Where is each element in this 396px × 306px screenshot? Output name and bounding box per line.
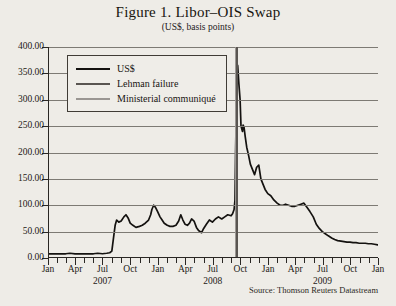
x-axis-tick-minor xyxy=(204,258,205,263)
figure-container: Figure 1. Libor–OIS Swap (US$, basis poi… xyxy=(0,0,396,306)
x-axis-tick-minor xyxy=(286,258,287,263)
y-axis-label: 300.00 xyxy=(0,95,44,105)
x-axis-tick-minor xyxy=(57,258,58,263)
legend: US$ Lehman failure Ministerial communiqu… xyxy=(67,55,227,112)
legend-label-us-dollar: US$ xyxy=(117,64,135,74)
legend-swatch-us-dollar xyxy=(76,68,110,70)
y-axis-label: 200.00 xyxy=(0,148,44,158)
figure-title: Figure 1. Libor–OIS Swap xyxy=(0,4,396,21)
legend-item-lehman-failure: Lehman failure xyxy=(76,76,216,91)
x-axis-tick-minor xyxy=(112,258,113,263)
x-axis-tick-minor xyxy=(66,258,67,263)
figure-subtitle: (US$, basis points) xyxy=(0,22,396,32)
x-axis-tick-minor xyxy=(277,258,278,263)
x-axis-tick-minor xyxy=(222,258,223,263)
source-note: Source: Thomson Reuters Datastream xyxy=(249,285,378,295)
legend-swatch-ministerial-communique xyxy=(76,98,110,100)
y-axis-label: 250.00 xyxy=(0,121,44,131)
x-axis-tick-minor xyxy=(140,258,141,263)
x-axis-tick-minor xyxy=(121,258,122,263)
x-axis-tick-minor xyxy=(369,258,370,263)
x-axis-tick-minor xyxy=(93,258,94,263)
x-axis-tick-minor xyxy=(149,258,150,263)
x-axis-tick-minor xyxy=(194,258,195,263)
legend-swatch-lehman-failure xyxy=(76,83,110,85)
x-axis-tick-minor xyxy=(250,258,251,263)
legend-item-ministerial-communique: Ministerial communiqué xyxy=(76,91,216,106)
x-axis-tick-minor xyxy=(176,258,177,263)
x-axis-year-label: 2008 xyxy=(193,276,233,286)
x-axis-tick-minor xyxy=(84,258,85,263)
x-axis-tick-minor xyxy=(231,258,232,263)
x-axis-tick-minor xyxy=(314,258,315,263)
y-axis-label: 0.00 xyxy=(0,253,44,263)
x-axis-tick-minor xyxy=(332,258,333,263)
x-axis-tick-minor xyxy=(259,258,260,263)
legend-item-us-dollar: US$ xyxy=(76,61,216,76)
plot-area: US$ Lehman failure Ministerial communiqu… xyxy=(48,47,378,258)
y-axis-label: 100.00 xyxy=(0,200,44,210)
x-axis-tick-minor xyxy=(341,258,342,263)
x-axis-tick-minor xyxy=(304,258,305,263)
x-axis-tick-minor xyxy=(360,258,361,263)
y-axis-label: 350.00 xyxy=(0,68,44,78)
y-axis-label: 50.00 xyxy=(0,227,44,237)
x-axis-label: Jan xyxy=(361,264,395,274)
y-axis-label: 150.00 xyxy=(0,174,44,184)
y-axis-label: 400.00 xyxy=(0,42,44,52)
legend-label-ministerial-communique: Ministerial communiqué xyxy=(117,94,216,104)
x-axis-tick-minor xyxy=(167,258,168,263)
x-axis-year-label: 2007 xyxy=(82,276,122,286)
legend-label-lehman-failure: Lehman failure xyxy=(117,79,178,89)
